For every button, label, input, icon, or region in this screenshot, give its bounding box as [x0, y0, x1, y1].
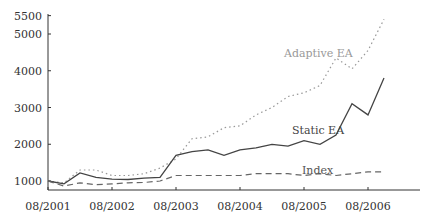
x-tick-label: 08/2002 — [89, 200, 135, 213]
y-tick-label: 5500 — [14, 10, 42, 23]
x-tick-label: 08/2001 — [25, 200, 71, 213]
line-chart: 100020003000400050005500 08/200108/20020… — [0, 0, 440, 221]
y-tick-label: 5000 — [14, 28, 42, 41]
series-index — [48, 172, 384, 186]
y-tick-labels: 100020003000400050005500 — [14, 10, 51, 188]
x-tick-label: 08/2006 — [345, 200, 391, 213]
x-tick-label: 08/2003 — [153, 200, 199, 213]
x-tick-labels: 08/200108/200208/200308/200408/200508/20… — [25, 187, 391, 213]
axes — [48, 14, 420, 190]
annotation-adaptive-ea: Adaptive EA — [283, 47, 354, 60]
series-annotations: Adaptive EA Static EA Index — [283, 47, 354, 177]
y-tick-label: 1000 — [14, 175, 42, 188]
y-tick-label: 3000 — [14, 102, 42, 115]
y-tick-label: 4000 — [14, 65, 42, 78]
series-lines — [48, 19, 384, 186]
annotation-index: Index — [302, 164, 334, 177]
x-tick-label: 08/2005 — [281, 200, 327, 213]
annotation-static-ea: Static EA — [292, 124, 345, 137]
series-adaptive-ea — [48, 19, 384, 183]
y-tick-label: 2000 — [14, 138, 42, 151]
x-tick-label: 08/2004 — [217, 200, 263, 213]
